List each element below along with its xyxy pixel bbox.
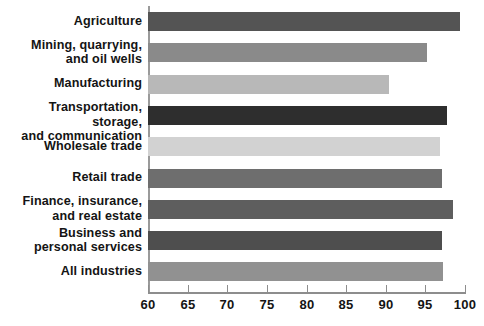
category-label: Manufacturing <box>0 76 142 91</box>
x-axis-tick <box>465 285 466 292</box>
bar <box>148 106 447 125</box>
x-axis-tick <box>227 285 228 292</box>
bar <box>148 75 389 94</box>
category-label: Wholesale trade <box>0 139 142 154</box>
x-axis-tick <box>188 285 189 292</box>
bar <box>148 137 440 156</box>
x-axis-tick <box>267 285 268 292</box>
bar <box>148 12 460 31</box>
bar <box>148 200 453 219</box>
x-axis-tick-label: 60 <box>128 297 168 312</box>
x-axis-tick-label: 95 <box>405 297 445 312</box>
category-label: Transportation, storage, and communicati… <box>0 100 142 144</box>
x-axis-tick <box>307 285 308 292</box>
x-axis-tick-label: 85 <box>326 297 366 312</box>
bar <box>148 43 427 62</box>
x-axis-tick-label: 65 <box>168 297 208 312</box>
category-label: Retail trade <box>0 170 142 185</box>
bar <box>148 169 442 188</box>
category-label: All industries <box>0 264 142 279</box>
category-label: Business and personal services <box>0 226 142 255</box>
x-axis-line <box>148 292 466 294</box>
x-axis-tick <box>148 285 149 292</box>
x-axis-tick-label: 75 <box>247 297 287 312</box>
x-axis-tick <box>386 285 387 292</box>
x-axis-tick-label: 90 <box>366 297 406 312</box>
bar <box>148 231 442 250</box>
category-label: Agriculture <box>0 14 142 29</box>
x-axis-tick-label: 70 <box>207 297 247 312</box>
category-label: Finance, insurance, and real estate <box>0 194 142 223</box>
x-axis-tick <box>346 285 347 292</box>
x-axis-tick-label: 100 <box>445 297 484 312</box>
x-axis-tick <box>425 285 426 292</box>
category-label: Mining, quarrying, and oil wells <box>0 38 142 67</box>
bar <box>148 262 443 281</box>
x-axis-tick-label: 80 <box>287 297 327 312</box>
bar-chart: 6065707580859095100 AgricultureMining, q… <box>0 0 484 326</box>
